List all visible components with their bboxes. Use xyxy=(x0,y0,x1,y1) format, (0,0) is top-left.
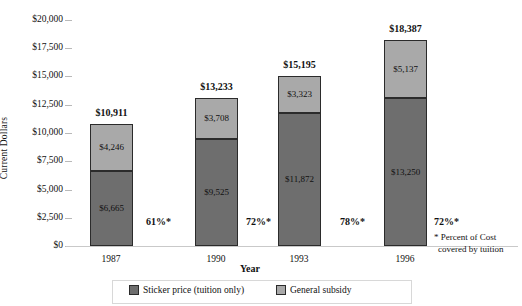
y-tick-label-10000: $10,000 xyxy=(32,128,63,138)
bar-segment-value: $11,872 xyxy=(285,175,314,184)
x-axis-title: Year xyxy=(240,263,260,274)
y-tick-mark xyxy=(65,133,72,134)
y-tick-label-2500: $2,500 xyxy=(37,213,63,223)
y-tick-label-7500: $7,500 xyxy=(37,156,63,166)
bar-segment-value: $3,708 xyxy=(204,114,229,123)
bar-total-label-1990: $13,233 xyxy=(185,81,248,92)
bar-segment-general-subsidy-1990[interactable]: $3,708 xyxy=(195,98,238,139)
y-tick-mark xyxy=(65,105,72,106)
bar-total-label-1993: $15,195 xyxy=(268,59,331,70)
y-tick-label-5000: $5,000 xyxy=(37,185,63,195)
bar-total-label-1987: $10,911 xyxy=(80,107,143,118)
bar-segment-value: $9,525 xyxy=(204,188,229,197)
legend-swatch-icon xyxy=(276,285,286,295)
annotation-percent-1987: 61%* xyxy=(146,216,171,227)
legend-item-general-subsidy[interactable]: General subsidy xyxy=(276,285,351,295)
bar-segment-value: $4,246 xyxy=(99,143,124,152)
bar-segment-value: $5,137 xyxy=(393,65,418,74)
bar-segment-general-subsidy-1996[interactable]: $5,137 xyxy=(384,40,427,98)
bar-segment-value: $3,323 xyxy=(287,90,312,99)
annotation-percent-1996: 72%* xyxy=(434,216,459,227)
legend: Sticker price (tuition only) General sub… xyxy=(112,280,412,304)
bar-segment-value: $6,665 xyxy=(99,204,124,213)
y-tick-mark xyxy=(65,76,72,77)
legend-item-sticker-price[interactable]: Sticker price (tuition only) xyxy=(129,285,244,295)
bar-segment-general-subsidy-1993[interactable]: $3,323 xyxy=(278,76,321,113)
footnote-line-1: * Percent of Cost xyxy=(434,231,496,243)
y-tick-mark xyxy=(65,218,72,219)
x-tick-label-1993: 1993 xyxy=(269,254,329,264)
legend-swatch-icon xyxy=(129,285,139,295)
y-tick-mark xyxy=(65,161,72,162)
y-axis-label: Current Dollars xyxy=(0,0,9,88)
y-tick-mark xyxy=(65,20,72,21)
footnote-line-2: covered by tuition xyxy=(438,243,503,255)
x-tick-label-1987: 1987 xyxy=(81,254,141,264)
y-tick-label-15000: $15,000 xyxy=(32,71,63,81)
legend-label: General subsidy xyxy=(290,285,351,295)
annotation-percent-1993: 78%* xyxy=(340,216,365,227)
annotation-percent-1990: 72%* xyxy=(246,216,271,227)
bar-segment-sticker-price-1996[interactable]: $13,250 xyxy=(384,98,427,246)
y-axis-label-text: Current Dollars xyxy=(0,88,9,208)
bar-total-label-1996: $18,387 xyxy=(374,23,437,34)
bar-segment-sticker-price-1987[interactable]: $6,665 xyxy=(90,171,133,246)
bar-segment-sticker-price-1990[interactable]: $9,525 xyxy=(195,139,238,246)
bar-segment-value: $13,250 xyxy=(391,168,420,177)
y-tick-label-20000: $20,000 xyxy=(32,15,63,25)
bar-segment-sticker-price-1993[interactable]: $11,872 xyxy=(278,113,321,246)
y-tick-mark xyxy=(65,48,72,49)
bar-segment-general-subsidy-1987[interactable]: $4,246 xyxy=(90,124,133,171)
stacked-bar-chart: Current Dollars $20,000 $17,500 $15,000 … xyxy=(0,0,522,306)
x-tick-label-1990: 1990 xyxy=(186,254,246,264)
x-tick-label-1996: 1996 xyxy=(375,254,435,264)
y-tick-label-17500: $17,500 xyxy=(32,43,63,53)
y-tick-mark xyxy=(65,190,72,191)
y-tick-label-12500: $12,500 xyxy=(32,100,63,110)
y-tick-label-0: $0 xyxy=(54,241,64,251)
legend-label: Sticker price (tuition only) xyxy=(143,285,244,295)
